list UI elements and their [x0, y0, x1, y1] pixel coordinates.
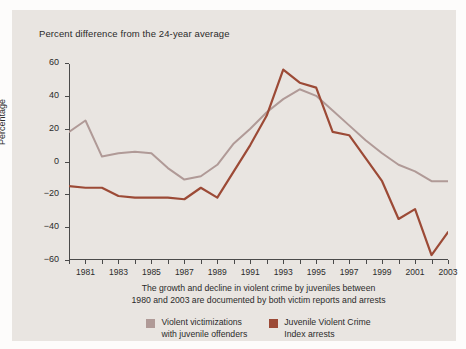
chart-legend: Violent victimizationswith juvenile offe…: [69, 317, 448, 340]
legend-label: Juvenile Violent CrimeIndex arrests: [284, 317, 370, 340]
caption-line-2: 1980 and 2003 are documented by both vic…: [69, 294, 448, 306]
x-tick-label: 1985: [136, 267, 166, 277]
y-axis-label: Percentage: [0, 99, 7, 145]
x-tick-mark: [135, 260, 136, 264]
x-tick-label: 1993: [268, 267, 298, 277]
x-tick-mark: [333, 260, 334, 264]
chart-title: Percent difference from the 24-year aver…: [39, 28, 230, 39]
y-tick-label: 60: [31, 57, 59, 67]
legend-label: Violent victimizationswith juvenile offe…: [161, 317, 247, 340]
y-tick-label: 20: [31, 123, 59, 133]
x-tick-label: 1981: [70, 267, 100, 277]
x-tick-mark: [118, 260, 119, 264]
x-tick-label: 1983: [103, 267, 133, 277]
x-tick-mark: [316, 260, 317, 264]
x-tick-label: 2003: [433, 267, 463, 277]
plot-area: [69, 63, 448, 260]
x-tick-label: 1999: [367, 267, 397, 277]
x-tick-mark: [184, 260, 185, 264]
x-tick-mark: [432, 260, 433, 264]
x-tick-mark: [168, 260, 169, 264]
y-tick-label: 40: [31, 90, 59, 100]
x-tick-mark: [283, 260, 284, 264]
x-tick-mark: [85, 260, 86, 264]
x-tick-mark: [382, 260, 383, 264]
x-tick-label: 1987: [169, 267, 199, 277]
series-line: [69, 89, 448, 181]
x-tick-mark: [300, 260, 301, 264]
y-tick-label: −60: [31, 254, 59, 264]
x-tick-mark: [448, 260, 449, 264]
series-lines: [69, 63, 448, 260]
x-tick-mark: [415, 260, 416, 264]
x-tick-label: 1997: [334, 267, 364, 277]
x-tick-label: 1991: [235, 267, 265, 277]
chart-caption: The growth and decline in violent crime …: [69, 282, 448, 306]
legend-swatch-icon: [269, 319, 278, 328]
x-tick-mark: [349, 260, 350, 264]
x-tick-mark: [151, 260, 152, 264]
chart-panel: Percent difference from the 24-year aver…: [12, 10, 456, 341]
legend-swatch-icon: [146, 319, 155, 328]
y-tick-label: −40: [31, 221, 59, 231]
x-tick-mark: [102, 260, 103, 264]
series-line: [69, 70, 448, 256]
x-tick-mark: [234, 260, 235, 264]
x-tick-mark: [201, 260, 202, 264]
x-tick-label: 1989: [202, 267, 232, 277]
x-tick-mark: [267, 260, 268, 264]
x-tick-mark: [250, 260, 251, 264]
x-tick-mark: [399, 260, 400, 264]
legend-item-victimizations[interactable]: Violent victimizationswith juvenile offe…: [146, 317, 247, 340]
x-tick-mark: [217, 260, 218, 264]
chart-figure: Percent difference from the 24-year aver…: [0, 0, 466, 349]
legend-item-arrests[interactable]: Juvenile Violent CrimeIndex arrests: [269, 317, 370, 340]
x-tick-label: 1995: [301, 267, 331, 277]
x-tick-mark: [366, 260, 367, 264]
y-tick-label: 0: [31, 156, 59, 166]
x-tick-label: 2001: [400, 267, 430, 277]
y-tick-label: −20: [31, 188, 59, 198]
caption-line-1: The growth and decline in violent crime …: [69, 282, 448, 294]
x-tick-mark: [69, 260, 70, 264]
